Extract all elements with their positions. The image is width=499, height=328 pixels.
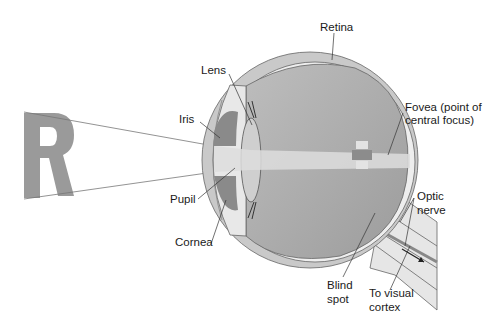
label-blind-1: Blind [327,279,353,292]
label-lens: Lens [201,64,226,77]
label-optic-2: nerve [417,204,446,217]
label-pupil: Pupil [170,193,196,206]
label-cornea: Cornea [175,236,213,249]
label-retina: Retina [320,21,353,34]
label-blind-2: spot [327,293,349,306]
label-fovea-2: central focus) [405,114,474,127]
label-cortex-2: cortex [369,301,400,314]
eye-diagram: Retina Lens Iris Fovea (point of central… [0,0,499,328]
label-optic-1: Optic [417,190,444,203]
eye-illustration [0,0,499,328]
label-cortex-1: To visual [369,287,414,300]
label-fovea-1: Fovea (point of [405,101,482,114]
object-letter-r [24,113,74,198]
label-iris: Iris [179,113,194,126]
